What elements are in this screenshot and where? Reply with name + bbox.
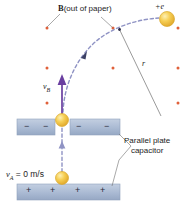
plate-sign-negative: − — [104, 122, 109, 132]
field-dot — [177, 67, 180, 70]
field-dot — [46, 67, 49, 70]
charge-at-b — [56, 114, 69, 127]
plate-sign-negative: − — [43, 122, 48, 132]
velocity-a-subscript: A — [10, 175, 14, 181]
circle-center-marker — [118, 28, 121, 31]
plate-sign-negative: − — [24, 122, 29, 132]
velocity-b-subscript: B — [47, 87, 51, 93]
leader-line-left — [47, 14, 60, 27]
acceleration-path-group — [59, 127, 66, 172]
field-dot — [112, 67, 115, 70]
velocity-b-label: vB — [43, 83, 50, 93]
plate-sign-positive: + — [26, 186, 31, 196]
plate-sign-positive: + — [75, 186, 80, 196]
field-dot — [177, 102, 180, 105]
path-arrowhead — [59, 141, 66, 149]
magnetic-field-label: B(out of paper) — [58, 4, 112, 14]
trajectory-arrowhead — [81, 51, 87, 60]
plate-sign-negative: − — [76, 122, 81, 132]
particles-group — [56, 12, 175, 185]
physics-diagram-figure: B(out of paper) +e r vB vA = 0 m/s Paral… — [0, 0, 186, 207]
radius-line — [120, 30, 162, 117]
charge-at-a — [56, 172, 69, 185]
velocity-a-symbol-group: vA — [6, 169, 13, 179]
velocity-arrow-head — [58, 74, 67, 85]
top-plate-left-segment — [17, 119, 55, 135]
field-note-text: (out of paper) — [64, 4, 112, 13]
field-label-leader-lines — [47, 14, 113, 28]
plate-sign-positive: + — [100, 186, 105, 196]
field-dot — [177, 27, 180, 30]
capacitor-label-line2: capacitor — [124, 146, 170, 156]
field-dot — [46, 102, 49, 105]
velocity-a-value: = 0 m/s — [16, 169, 44, 179]
charge-label: +e — [155, 3, 164, 12]
leader-line-right — [101, 17, 113, 28]
charge-at-b-top-right — [160, 12, 175, 27]
capacitor-label-line1: Parallel plate — [124, 136, 170, 146]
capacitor-label: Parallel plate capacitor — [124, 136, 170, 156]
radius-label: r — [142, 60, 145, 69]
velocity-a-label: vA = 0 m/s — [6, 170, 44, 181]
plate-sign-positive: + — [50, 186, 55, 196]
radius-line-group — [118, 28, 161, 116]
